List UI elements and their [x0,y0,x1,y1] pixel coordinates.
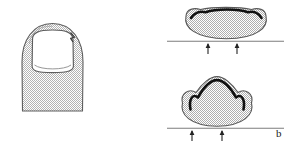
panel-dorsal-fingertip [22,24,83,112]
normal-nail-force-arrow-right-icon [235,43,240,54]
nail-anatomy-figure [0,0,295,148]
figure-part-label: b [276,128,282,139]
normal-nail-force-arrow-left-icon [206,43,211,54]
pincer-nail-tissue-mass [182,77,252,127]
pincer-nail-force-arrow-left-icon [190,130,195,141]
panel-cross-section-normal-nail [167,7,284,54]
nail-plate [32,30,73,73]
figure-root: b [0,0,295,148]
panel-cross-section-pincer-nail [167,77,284,141]
pincer-nail-force-arrow-right-icon [220,130,225,141]
